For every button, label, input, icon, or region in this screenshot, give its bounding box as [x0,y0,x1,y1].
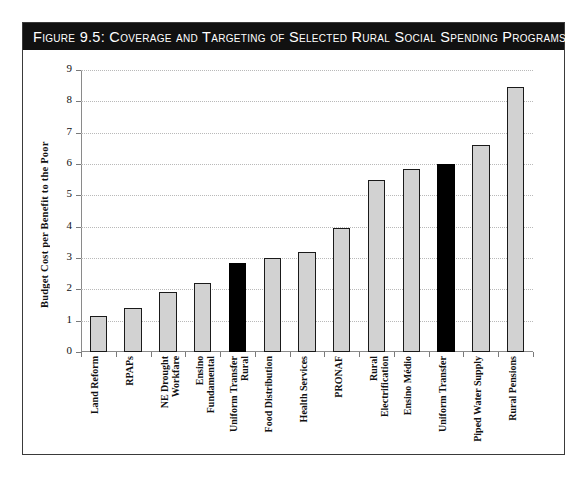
x-axis-label: RPAPs [125,356,136,386]
y-axis-tick-label: 7 [55,125,72,137]
x-axis-tick [533,352,534,357]
y-axis-tick-label: 5 [55,187,72,199]
x-axis-label: RuralElectrification [369,356,391,417]
x-axis-label: Food Distribution [264,356,275,432]
y-axis-tick-label: 3 [55,250,72,262]
x-axis-label: EnsinoFundamental [195,356,217,413]
y-axis-tick-label: 9 [55,62,72,74]
x-axis-label: Ensino Médio [403,356,414,415]
figure-frame: Figure 9.5: Coverage and Targeting of Se… [22,22,565,455]
gridline [81,101,533,102]
y-axis-tick [76,321,81,322]
gridline [81,227,533,228]
y-axis-tick-label: 6 [55,156,72,168]
y-axis-tick [76,258,81,259]
bar [264,258,281,352]
bar [368,180,385,352]
x-axis-label: Health Services [299,356,310,422]
y-axis-line [81,70,82,352]
bar [472,145,489,352]
bar [124,308,141,352]
gridline [81,164,533,165]
y-axis-tick [76,195,81,196]
bar [333,228,350,352]
y-axis-tick-label: 1 [55,313,72,325]
x-axis-label: PRONAF [334,356,345,398]
y-axis-tick [76,133,81,134]
bar [507,87,524,352]
bar [437,164,454,352]
y-axis-tick [76,101,81,102]
bar [229,263,246,352]
chart-canvas: 0123456789 [81,70,533,352]
x-axis-label: Uniform TransferRural [229,356,251,432]
bar [194,283,211,352]
gridline [81,70,533,71]
y-axis-tick-label: 8 [55,93,72,105]
y-axis-tick [76,289,81,290]
x-axis-label: Piped Water Supply [473,356,484,442]
y-axis-tick [76,227,81,228]
x-axis-label: Rural Pensions [508,356,519,421]
figure-container: Figure 9.5: Coverage and Targeting of Se… [0,0,587,478]
figure-title-bar: Figure 9.5: Coverage and Targeting of Se… [23,23,564,50]
x-axis-label: Land Reform [90,356,101,414]
y-axis-tick-label: 2 [55,281,72,293]
bar [403,169,420,352]
x-axis-label: NE DroughtWorkfare [160,356,182,408]
gridline [81,195,533,196]
y-axis-tick [76,164,81,165]
plot-area: Budget Cost per Benefit to the Poor 0123… [23,50,566,456]
y-axis-title: Budget Cost per Benefit to the Poor [36,110,52,340]
y-axis-tick-label: 4 [55,219,72,231]
bar [90,316,107,352]
bar [159,292,176,352]
y-axis-tick-label: 0 [55,344,72,356]
gridline [81,133,533,134]
x-axis-labels: Land ReformRPAPsNE DroughtWorkfareEnsino… [81,356,533,452]
bar [298,252,315,352]
x-axis-label: Uniform Transfer [438,356,449,432]
figure-title: Figure 9.5: Coverage and Targeting of Se… [33,29,566,45]
y-axis-tick [76,70,81,71]
